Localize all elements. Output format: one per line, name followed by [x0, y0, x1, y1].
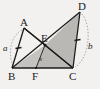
segment-label-a: a	[3, 44, 8, 53]
vertex-label-D: D	[78, 1, 86, 12]
segment-label-x: x	[39, 56, 42, 63]
segment-label-b: b	[88, 42, 93, 51]
vertex-dot-F	[35, 67, 37, 69]
vertex-label-C: C	[69, 71, 76, 82]
vertex-label-F: F	[32, 71, 38, 82]
tick-on-AB-icon	[16, 48, 22, 49]
vertex-label-B: B	[8, 71, 15, 82]
vertex-label-E: E	[41, 33, 48, 44]
tick-on-DC-icon	[75, 40, 81, 41]
geometry-figure: A D E B F C a b x	[0, 0, 100, 89]
vertex-label-A: A	[20, 17, 28, 28]
